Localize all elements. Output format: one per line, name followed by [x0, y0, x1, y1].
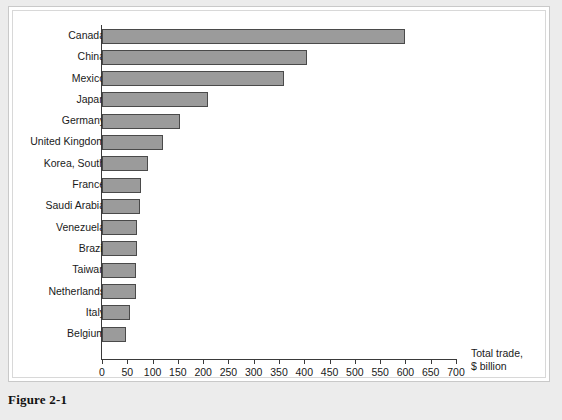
bar-series: CanadaChinaMexicoJapanGermanyUnited King…	[13, 27, 549, 346]
x-axis-tick	[380, 359, 381, 364]
figure-caption: Figure 2-1	[8, 392, 67, 408]
bar-category-label: United Kingdom	[0, 135, 105, 148]
bar-row: Venezuela	[13, 219, 549, 240]
bar-row: Korea, South	[13, 155, 549, 176]
bar-category-label: Mexico	[0, 72, 105, 85]
bar	[102, 199, 140, 214]
bar-category-label: Japan	[0, 93, 105, 106]
bar	[102, 50, 307, 65]
bar-category-label: Brazil	[0, 242, 105, 255]
bar-row: Canada	[13, 27, 549, 48]
bar-category-label: Italy	[0, 306, 105, 319]
bar	[102, 135, 163, 150]
bar-row: Belgium	[13, 325, 549, 346]
bar-category-label: Canada	[0, 29, 105, 42]
x-axis-tick	[178, 359, 179, 364]
bar-row: United Kingdom	[13, 133, 549, 154]
bar-category-label: Saudi Arabia	[0, 199, 105, 212]
bar-category-label: Belgium	[0, 327, 105, 340]
x-axis-tick	[355, 359, 356, 364]
bar	[102, 156, 148, 171]
x-axis-tick	[254, 359, 255, 364]
x-axis-tick-label: 700	[436, 366, 476, 378]
bar-row: Saudi Arabia	[13, 197, 549, 218]
x-axis-tick	[304, 359, 305, 364]
bar	[102, 263, 136, 278]
bar-category-label: Germany	[0, 114, 105, 127]
bar-row: Brazil	[13, 240, 549, 261]
figure-frame: CanadaChinaMexicoJapanGermanyUnited King…	[8, 6, 550, 382]
x-axis-tick	[203, 359, 204, 364]
bar	[102, 284, 136, 299]
x-axis-tick	[153, 359, 154, 364]
bar-category-label: China	[0, 50, 105, 63]
x-axis-tick	[279, 359, 280, 364]
bar-row: Germany	[13, 112, 549, 133]
bar	[102, 241, 137, 256]
bar-category-label: Taiwan	[0, 263, 105, 276]
x-axis-tick	[102, 359, 103, 364]
bar-row: Japan	[13, 91, 549, 112]
figure-inner-border: CanadaChinaMexicoJapanGermanyUnited King…	[12, 10, 546, 378]
bar	[102, 220, 137, 235]
x-axis-tick	[405, 359, 406, 364]
bar-chart: CanadaChinaMexicoJapanGermanyUnited King…	[13, 11, 549, 381]
bar-category-label: Netherlands	[0, 285, 105, 298]
bar-row: Italy	[13, 304, 549, 325]
bar-row: Netherlands	[13, 283, 549, 304]
bar-row: Mexico	[13, 70, 549, 91]
bar	[102, 114, 180, 129]
bar-category-label: Venezuela	[0, 221, 105, 234]
figure-page: CanadaChinaMexicoJapanGermanyUnited King…	[0, 0, 562, 420]
x-axis-tick	[330, 359, 331, 364]
bar-category-label: France	[0, 178, 105, 191]
x-axis-label-line2: $ billion	[471, 360, 547, 373]
bar	[102, 327, 126, 342]
bar-row: China	[13, 48, 549, 69]
x-axis-label-line1: Total trade,	[471, 347, 547, 360]
bar	[102, 71, 284, 86]
bar	[102, 305, 130, 320]
x-axis-tick	[127, 359, 128, 364]
bar	[102, 92, 208, 107]
x-axis-label: Total trade, $ billion	[471, 347, 547, 372]
bar	[102, 178, 141, 193]
bar-row: France	[13, 176, 549, 197]
bar-row: Taiwan	[13, 261, 549, 282]
x-axis-tick	[228, 359, 229, 364]
bar-category-label: Korea, South	[0, 157, 105, 170]
x-axis-tick	[431, 359, 432, 364]
x-axis-tick	[456, 359, 457, 364]
bar	[102, 29, 405, 44]
